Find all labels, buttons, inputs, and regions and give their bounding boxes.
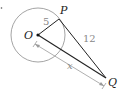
- segment-OQ: [38, 35, 106, 78]
- label-radius: 5: [43, 16, 49, 27]
- label-tangent: 12: [83, 33, 96, 44]
- label-Q: Q: [108, 76, 117, 89]
- dimension-arrow-start: [35, 44, 40, 48]
- tangent-circle-diagram: O P Q 5 12 x: [0, 0, 122, 95]
- stray-dot: [1, 7, 3, 9]
- diagram-canvas: O P Q 5 12 x: [0, 0, 122, 95]
- label-O: O: [24, 29, 33, 42]
- center-point-O: [36, 33, 39, 36]
- dimension-arrow-end: [99, 82, 104, 86]
- label-P: P: [59, 4, 68, 17]
- label-distance: x: [67, 60, 73, 71]
